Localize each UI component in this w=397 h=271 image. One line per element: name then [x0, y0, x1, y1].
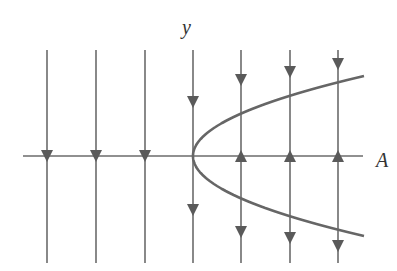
arrow-down-icon: [187, 204, 199, 216]
a-axis-label: A: [376, 150, 388, 170]
arrow-down-icon: [284, 232, 296, 244]
arrow-down-icon: [284, 66, 296, 78]
y-axis-label: y: [182, 17, 191, 37]
arrow-down-icon: [187, 96, 199, 108]
arrow-down-icon: [235, 226, 247, 238]
arrow-down-icon: [332, 240, 344, 252]
bifurcation-diagram: [0, 0, 397, 271]
arrow-down-icon: [332, 58, 344, 70]
arrow-down-icon: [235, 74, 247, 86]
